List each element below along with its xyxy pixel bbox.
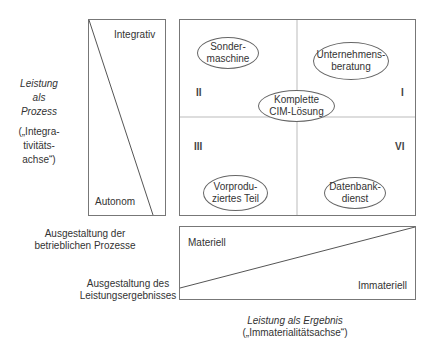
- ellipse-datenbankdienst: Datenbank- dienst: [324, 177, 386, 209]
- result-design-line: Leistungsergebnisses: [78, 290, 178, 302]
- ellipse-vorproduziertes-teil: Vorprodu- ziertes Teil: [203, 175, 268, 211]
- result-design-line: Ausgestaltung des: [78, 278, 178, 290]
- autonom-label: Autonom: [95, 196, 135, 208]
- ellipse-line: Sonder-: [207, 41, 250, 53]
- quadrant-label-vi: VI: [395, 141, 404, 152]
- process-design-label: Ausgestaltung der betrieblichen Prozesse: [20, 228, 150, 252]
- quadrant-label-i: I: [401, 87, 404, 98]
- bottom-axis-subtitle: („Immaterialitätsachse“): [220, 327, 370, 339]
- materiell-label: Materiell: [188, 237, 226, 249]
- ellipse-line: ziertes Teil: [212, 193, 259, 205]
- ellipse-line: dienst: [329, 193, 381, 205]
- ellipse-sondermaschine: Sonder- maschine: [197, 37, 259, 69]
- ellipse-line: Vorprodu-: [212, 181, 259, 193]
- quadrant-label-iii: III: [194, 141, 202, 152]
- ellipse-line: CIM-Lösung: [269, 106, 323, 118]
- result-design-label: Ausgestaltung des Leistungsergebnisses: [78, 278, 178, 302]
- ellipse-komplette-cim-loesung: Komplette CIM-Lösung: [258, 90, 335, 122]
- bottom-axis-title: Leistung als Ergebnis: [220, 315, 370, 327]
- ellipse-unternehmensberatung: Unternehmens- beratung: [313, 42, 389, 80]
- process-design-line: Ausgestaltung der: [20, 228, 150, 240]
- immateriell-label: Immateriell: [358, 280, 407, 292]
- integrativ-label: Integrativ: [114, 29, 155, 41]
- ellipse-line: maschine: [207, 53, 250, 65]
- ellipse-line: Komplette: [269, 94, 323, 106]
- ellipse-line: beratung: [317, 61, 386, 73]
- process-design-line: betrieblichen Prozesse: [20, 240, 150, 252]
- quadrant-label-ii: II: [196, 87, 202, 98]
- ellipse-line: Datenbank-: [329, 181, 381, 193]
- ellipse-line: Unternehmens-: [317, 49, 386, 61]
